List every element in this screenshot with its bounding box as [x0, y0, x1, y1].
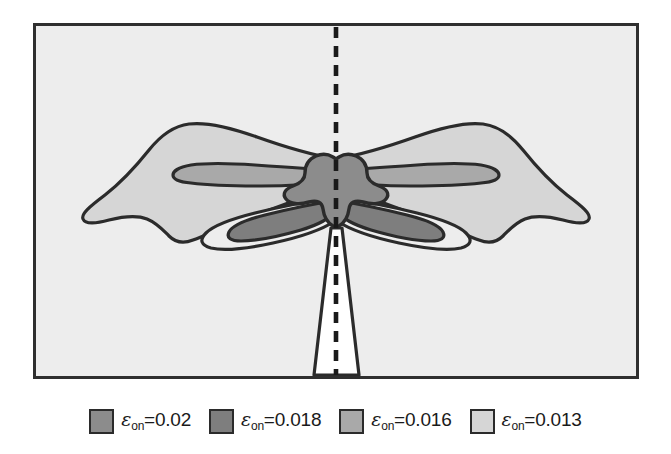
epsilon-symbol-1: ε	[241, 408, 251, 430]
legend-swatch-0	[89, 409, 114, 434]
epsilon-value-3: =0.013	[524, 409, 581, 430]
legend-label-1: εon=0.018	[241, 410, 321, 432]
legend-label-2: εon=0.016	[371, 410, 451, 432]
legend: εon=0.02 εon=0.018 εon=0.016 εon=0.013	[0, 396, 671, 446]
epsilon-value-0: =0.02	[144, 409, 191, 430]
legend-item-3: εon=0.013	[470, 409, 582, 434]
epsilon-subscript-3: on	[512, 419, 525, 433]
legend-swatch-2	[339, 409, 364, 434]
epsilon-symbol-3: ε	[502, 408, 512, 430]
legend-label-3: εon=0.013	[502, 410, 582, 432]
contour-canvas	[33, 23, 639, 379]
legend-swatch-3	[470, 409, 495, 434]
epsilon-symbol-2: ε	[371, 408, 381, 430]
plot-area	[33, 23, 639, 379]
epsilon-symbol-0: ε	[121, 408, 131, 430]
legend-item-1: εon=0.018	[209, 409, 321, 434]
epsilon-value-2: =0.016	[394, 409, 451, 430]
contour-figure: εon=0.02 εon=0.018 εon=0.016 εon=0.013	[0, 0, 671, 454]
legend-item-2: εon=0.016	[339, 409, 451, 434]
legend-label-0: εon=0.02	[121, 410, 191, 432]
epsilon-value-1: =0.018	[264, 409, 321, 430]
legend-swatch-1	[209, 409, 234, 434]
epsilon-subscript-2: on	[381, 419, 394, 433]
legend-item-0: εon=0.02	[89, 409, 191, 434]
epsilon-subscript-0: on	[131, 419, 144, 433]
epsilon-subscript-1: on	[251, 419, 264, 433]
